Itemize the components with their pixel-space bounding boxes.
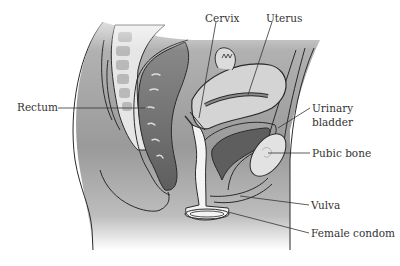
label-urinary-bladder-line2: bladder	[312, 116, 353, 128]
label-urinary-bladder-line1: Urinary	[312, 102, 353, 114]
anatomy-diagram: Rectum Cervix Uterus Urinary bladder Pub…	[0, 0, 400, 266]
label-rectum: Rectum	[17, 101, 58, 113]
label-female-condom: Female condom	[311, 227, 395, 239]
label-vulva: Vulva	[311, 199, 340, 211]
label-pubic-bone: Pubic bone	[312, 147, 371, 159]
label-cervix: Cervix	[205, 12, 239, 24]
label-uterus: Uterus	[266, 12, 302, 24]
